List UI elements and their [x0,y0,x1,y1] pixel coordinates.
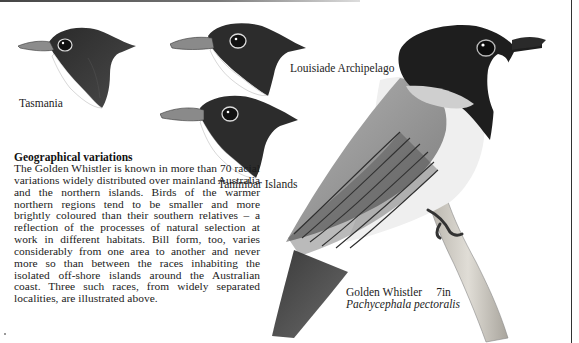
top-rule [0,0,360,2]
caption-tasmania: Tasmania [19,97,63,109]
species-size: 7in [436,286,451,298]
article-body: The Golden Whistler is known in more tha… [14,163,260,305]
species-common-line: Golden Whistler7in [346,286,460,298]
species-latin-name: Pachycephala pectoralis [346,298,460,310]
species-common-name: Golden Whistler [346,286,422,298]
article: Geographical variations The Golden Whist… [14,151,260,305]
right-rule [571,0,572,343]
species-label: Golden Whistler7in Pachycephala pectoral… [346,286,460,310]
corner-mark [4,333,6,335]
